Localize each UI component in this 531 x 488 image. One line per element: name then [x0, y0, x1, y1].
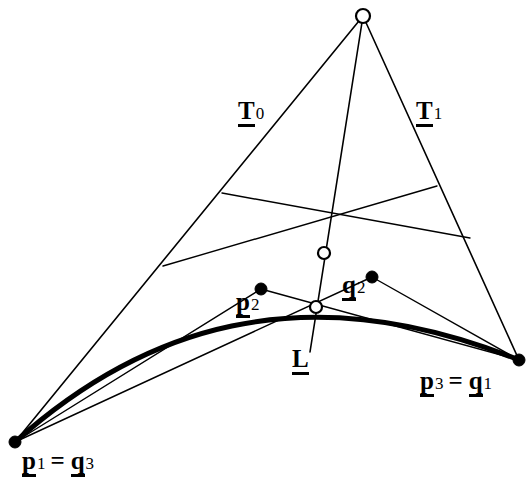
segment-rib-left-lower: [163, 186, 437, 266]
label-p2-subscript: 2: [251, 296, 260, 313]
label-p3-base: p: [420, 368, 434, 397]
point-p3_eq_q1: [513, 354, 525, 366]
label-t0-base: T: [238, 98, 255, 127]
label-equals-sign-2: =: [442, 368, 468, 393]
label-t1-base: T: [416, 98, 433, 127]
label-q1-subscript: 1: [484, 375, 493, 392]
point-intersection-lower: [310, 301, 322, 313]
label-p1-base: p: [22, 448, 36, 477]
label-point-p1-equals-q3: p1=q3: [22, 448, 93, 477]
label-p3-subscript: 3: [435, 375, 444, 392]
label-q2-subscript: 2: [357, 279, 366, 296]
segment-tangent-T1: [363, 16, 519, 360]
label-p1-subscript: 1: [37, 455, 46, 472]
label-q2-base: q: [342, 272, 356, 301]
segment-chord-q-right: [372, 277, 519, 360]
label-t0-subscript: 0: [256, 105, 265, 122]
segment-rib-left-upper: [222, 193, 470, 238]
segment-chord-left-hull: [15, 289, 261, 442]
label-point-p3-equals-q1: p3=q1: [420, 368, 491, 397]
label-q3-base: q: [71, 448, 85, 477]
label-point-q2: q2: [342, 272, 364, 301]
label-tangent-t0: T0: [238, 98, 263, 127]
bezier-diagram-figure: T0 T1 L p2 q2 p1=q3 p3=q1: [0, 0, 531, 488]
label-p2-base: p: [236, 289, 250, 318]
label-equals-sign: =: [44, 448, 70, 473]
label-q3-subscript: 3: [86, 455, 95, 472]
segment-tangent-T0: [15, 16, 363, 442]
label-point-p2: p2: [236, 289, 258, 318]
point-apex: [356, 9, 370, 23]
label-t1-subscript: 1: [434, 105, 443, 122]
label-q1-base: q: [469, 368, 483, 397]
label-l-base: L: [292, 346, 309, 375]
point-intersection-upper: [318, 247, 330, 259]
label-line-l: L: [292, 346, 309, 375]
label-tangent-t1: T1: [416, 98, 441, 127]
point-p1_eq_q3: [9, 436, 21, 448]
point-q2: [366, 271, 378, 283]
diagram-canvas: [0, 0, 531, 488]
